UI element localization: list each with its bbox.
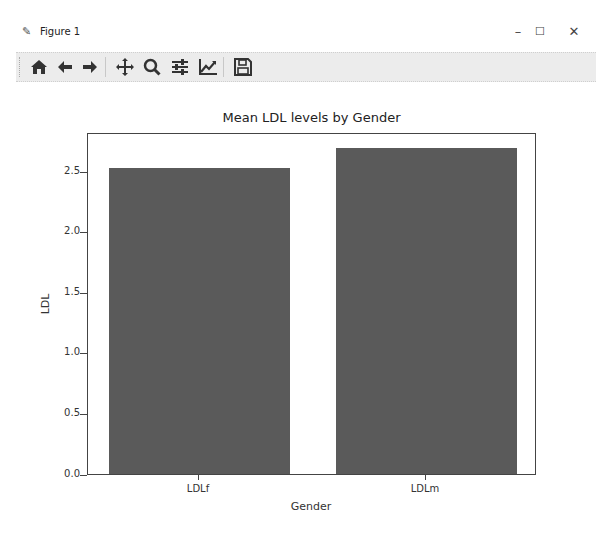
chart-title: Mean LDL levels by Gender	[87, 110, 536, 125]
arrow-left-icon	[56, 59, 74, 75]
window-titlebar: ✎ Figure 1 – ☐ ✕	[0, 0, 604, 48]
home-icon	[30, 59, 48, 75]
plot-axes[interactable]	[87, 133, 536, 475]
close-button[interactable]: ✕	[564, 24, 584, 40]
y-tick-label: 1.0	[64, 346, 80, 357]
y-tick-label: 1.5	[64, 286, 80, 297]
x-axis-label: Gender	[291, 500, 332, 513]
magnifier-icon	[143, 58, 161, 76]
toolbar-grip[interactable]	[19, 57, 22, 77]
y-tick-label: 0.5	[64, 407, 80, 418]
y-tick-label: 0.0	[64, 468, 80, 479]
toolbar-separator	[105, 57, 106, 77]
sliders-icon	[171, 58, 189, 76]
y-tick	[80, 414, 87, 415]
x-tick-label: LDLf	[187, 483, 209, 494]
save-button[interactable]	[232, 56, 254, 78]
y-tick-label: 2.0	[64, 225, 80, 236]
y-tick	[80, 232, 87, 233]
move-icon	[116, 58, 134, 76]
x-tick-label: LDLm	[411, 483, 440, 494]
y-tick	[80, 172, 87, 173]
toolbar-separator	[223, 57, 224, 77]
matplotlib-app-icon: ✎	[22, 26, 34, 38]
zoom-button[interactable]	[141, 56, 163, 78]
minimize-button[interactable]: –	[508, 24, 528, 40]
arrow-right-icon	[81, 59, 99, 75]
bar-ldlf	[109, 168, 290, 474]
line-chart-icon	[198, 58, 218, 76]
window-title: Figure 1	[40, 26, 80, 37]
y-axis-label: LDL	[39, 294, 52, 315]
back-button[interactable]	[54, 56, 76, 78]
configure-subplots-button[interactable]	[169, 56, 191, 78]
y-tick	[80, 353, 87, 354]
x-tick	[198, 475, 199, 480]
navigation-toolbar	[16, 52, 596, 82]
y-tick	[80, 475, 87, 476]
floppy-disk-icon	[234, 58, 252, 76]
bar-ldlm	[336, 148, 517, 474]
maximize-button[interactable]: ☐	[530, 24, 550, 40]
forward-button[interactable]	[79, 56, 101, 78]
y-tick	[80, 293, 87, 294]
y-tick-label: 2.5	[64, 165, 80, 176]
pan-button[interactable]	[114, 56, 136, 78]
edit-axis-button[interactable]	[197, 56, 219, 78]
home-button[interactable]	[28, 56, 50, 78]
x-tick	[425, 475, 426, 480]
